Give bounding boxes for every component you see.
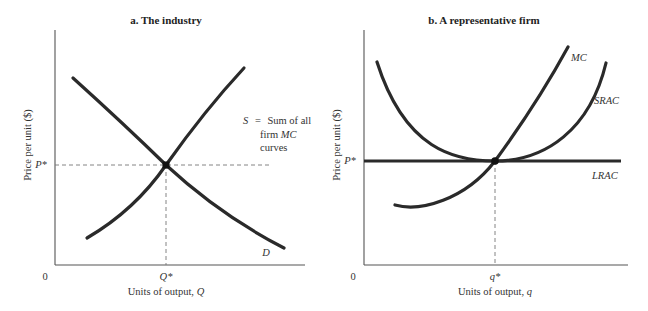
panel-title-industry: a. The industry <box>130 14 202 26</box>
quantity-tick-firm: q* <box>490 271 501 282</box>
supply-label: S = Sum of all <box>243 115 311 126</box>
origin-label-industry: 0 <box>42 271 47 282</box>
srac-label: SRAC <box>594 95 620 106</box>
origin-label-firm: 0 <box>350 271 355 282</box>
equilibrium-point-industry <box>163 162 170 169</box>
srac-curve <box>377 62 606 161</box>
equilibrium-point-firm <box>491 157 499 165</box>
y-axis-label-firm: Price per unit ($) <box>331 109 343 181</box>
panel-industry: a. The industry Price per unit ($) 0 P* … <box>22 14 311 297</box>
x-axis-label-firm: Units of output, q <box>458 286 532 297</box>
y-axis-label-industry: Price per unit ($) <box>22 109 34 181</box>
demand-curve <box>73 78 284 248</box>
x-axis-label-industry: Units of output, Q <box>128 286 205 297</box>
price-tick-industry: P* <box>34 159 47 170</box>
mc-curve <box>395 47 568 207</box>
quantity-tick-industry: Q* <box>160 271 174 282</box>
panel-firm: b. A representative firm Price per unit … <box>331 14 628 297</box>
demand-label: D <box>261 247 270 258</box>
supply-curve <box>87 68 244 238</box>
supply-label-line2: firm MC <box>260 129 297 140</box>
panel-title-firm: b. A representative firm <box>428 14 539 26</box>
price-tick-firm: P* <box>343 155 356 166</box>
lrac-label: LRAC <box>591 170 619 181</box>
mc-label: MC <box>570 52 588 63</box>
diagram-canvas: a. The industry Price per unit ($) 0 P* … <box>0 0 648 311</box>
supply-label-line3: curves <box>260 142 287 153</box>
